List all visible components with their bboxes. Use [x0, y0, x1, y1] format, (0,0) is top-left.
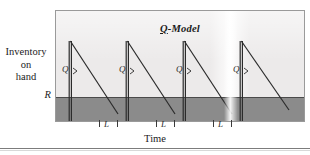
depletion-slope-1 — [70, 41, 118, 114]
y-axis-label: Inventory on hand — [0, 46, 52, 84]
bottom-rule — [0, 148, 310, 149]
order-quantity-label-3: Q — [176, 64, 183, 74]
plot-area: Q-Model — [55, 10, 305, 122]
x-axis-label: Time — [0, 133, 310, 144]
lead-time-bracket-2-left — [156, 121, 157, 127]
depletion-slope-4 — [241, 41, 289, 110]
q-arrow-2 — [130, 68, 134, 74]
lead-time-bracket-2-right — [174, 121, 175, 127]
q-arrow-1 — [73, 68, 77, 74]
depletion-slope-3 — [184, 41, 232, 114]
reorder-point-label: R — [38, 89, 51, 100]
order-quantity-label-2: Q — [119, 64, 126, 74]
lead-time-label-3: L — [218, 119, 223, 129]
order-quantity-label-1: Q — [62, 64, 69, 74]
lead-time-bracket-3-left — [213, 121, 214, 127]
lead-time-label-2: L — [161, 119, 166, 129]
depletion-slope-2 — [127, 41, 175, 114]
lead-time-label-1: L — [104, 119, 109, 129]
q-arrow-4 — [244, 68, 248, 74]
q-arrow-3 — [187, 68, 191, 74]
lead-time-bracket-3-right — [231, 121, 232, 127]
order-quantity-label-4: Q — [233, 64, 240, 74]
figure-container: Inventory on hand R Q-Model — [0, 0, 310, 155]
lead-time-bracket-1-left — [99, 121, 100, 127]
y-axis-label-line3: hand — [0, 71, 52, 84]
y-axis-label-line2: on — [0, 59, 52, 72]
y-axis-label-line1: Inventory — [0, 46, 52, 59]
lead-time-bracket-1-right — [117, 121, 118, 127]
bottom-rule-shadow — [0, 150, 310, 151]
